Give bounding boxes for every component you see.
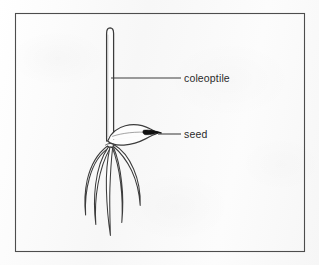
figure-page: coleoptile seed [0,0,319,265]
seed-label-text: seed [184,128,207,140]
coleoptile-label-text: coleoptile [184,72,230,84]
root-4 [112,147,123,223]
root-3 [106,147,112,236]
label-seed: seed [158,128,207,140]
seedling-diagram: coleoptile seed [0,0,319,265]
label-coleoptile: coleoptile [111,72,230,84]
root-5 [113,145,140,206]
root-system [85,143,140,235]
seed-body [108,125,161,145]
coleoptile-shoot [107,28,114,141]
